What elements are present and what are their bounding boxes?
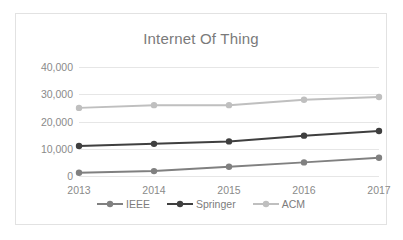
chart-container: Internet Of Thing 40,00030,00020,00010,0… (15, 13, 387, 225)
y-axis-tick-label: 10,000 (41, 143, 73, 155)
series-acm (76, 94, 382, 111)
x-axis-tick-label: 2017 (367, 184, 390, 196)
data-point (376, 128, 382, 134)
data-point (301, 159, 307, 165)
chart-legend: IEEESpringerACM (16, 198, 386, 210)
data-point (301, 97, 307, 103)
data-point (301, 132, 307, 138)
legend-item-ieee[interactable]: IEEE (97, 198, 150, 210)
x-axis-tick-label: 2015 (217, 184, 240, 196)
series-ieee (76, 155, 382, 176)
legend-key-icon (167, 199, 193, 209)
legend-key-icon (97, 199, 123, 209)
data-point (376, 94, 382, 100)
x-axis-tick-label: 2016 (292, 184, 315, 196)
chart-title: Internet Of Thing (16, 30, 386, 47)
data-point (376, 155, 382, 161)
y-axis-tick-label: 30,000 (41, 88, 73, 100)
series-springer (76, 128, 382, 149)
data-point (76, 143, 82, 149)
series-layer (79, 67, 379, 176)
legend-item-acm[interactable]: ACM (253, 198, 305, 210)
plot-area: 40,00030,00020,00010,0000 20132014201520… (79, 67, 379, 176)
data-point (226, 138, 232, 144)
data-point (151, 168, 157, 174)
data-point (76, 105, 82, 111)
legend-label: IEEE (126, 198, 150, 210)
y-axis-tick-label: 40,000 (41, 61, 73, 73)
y-axis-tick-label: 0 (67, 170, 73, 182)
legend-key-icon (253, 199, 279, 209)
y-axis-tick-label: 20,000 (41, 116, 73, 128)
x-axis-tick-label: 2014 (142, 184, 165, 196)
x-axis-tick-label: 2013 (67, 184, 90, 196)
legend-item-springer[interactable]: Springer (167, 198, 236, 210)
legend-label: Springer (196, 198, 236, 210)
data-point (151, 141, 157, 147)
data-point (76, 170, 82, 176)
legend-label: ACM (282, 198, 305, 210)
data-point (226, 164, 232, 170)
data-point (151, 102, 157, 108)
data-point (226, 102, 232, 108)
gridline (79, 176, 379, 177)
